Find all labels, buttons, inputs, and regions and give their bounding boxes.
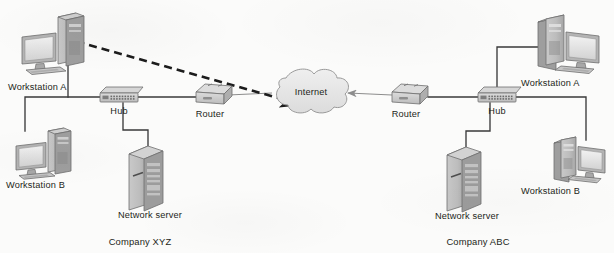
label-right-router: Router: [392, 110, 420, 119]
left-server-icon: [129, 146, 163, 211]
left-workstation-b-icon: [16, 128, 71, 179]
right-router-icon: [392, 84, 428, 104]
label-left-workstation-a: Workstation A: [8, 83, 66, 92]
left-workstation-a-icon: [22, 13, 84, 75]
label-right-workstation-a: Workstation A: [521, 79, 579, 88]
right-workstation-b-icon: [554, 137, 605, 183]
label-left-company: Company XYZ: [109, 237, 172, 246]
label-left-hub: Hub: [110, 107, 127, 116]
label-left-router: Router: [196, 110, 224, 119]
left-hub-icon: [100, 87, 143, 102]
label-right-hub: Hub: [488, 107, 505, 116]
label-left-server: Network server: [118, 211, 182, 220]
label-internet-cloud: Internet: [295, 88, 327, 97]
device-icons-layer: [0, 0, 614, 253]
label-right-workstation-b: Workstation B: [521, 187, 580, 196]
right-hub-icon: [478, 87, 521, 102]
label-right-server: Network server: [435, 212, 499, 221]
network-diagram: Workstation A Workstation B Hub Router N…: [0, 0, 614, 253]
label-left-workstation-b: Workstation B: [6, 181, 65, 190]
label-right-company: Company ABC: [446, 237, 509, 246]
left-router-icon: [196, 84, 232, 104]
right-server-icon: [447, 147, 481, 212]
right-workstation-a-icon: [538, 15, 599, 74]
